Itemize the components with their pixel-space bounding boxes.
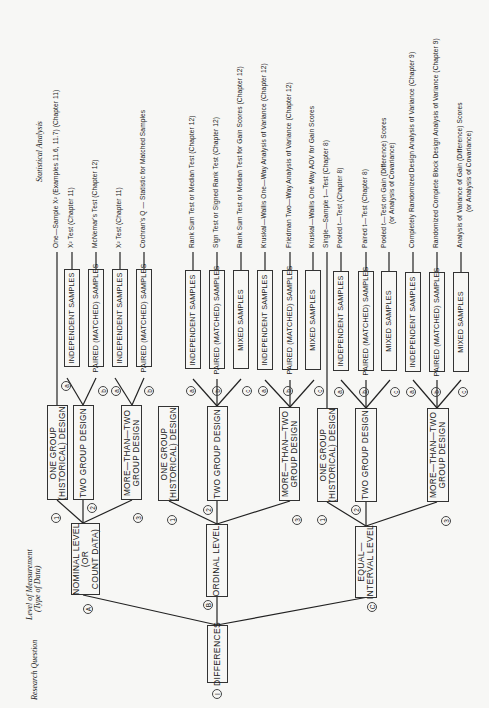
marker-2: 2 bbox=[203, 505, 213, 515]
sample-label: INDEPENDENT SAMPLES bbox=[68, 272, 76, 363]
heading-research-question: Research Question bbox=[31, 640, 39, 700]
marker-c: c bbox=[390, 387, 400, 397]
differences-box: DIFFERENCES bbox=[207, 625, 228, 683]
sample-independent: INDEPENDENT SAMPLES bbox=[112, 269, 128, 367]
test-label: Kruskal—Wallis One—Way Analysis of Varia… bbox=[261, 63, 268, 248]
marker-c: c bbox=[242, 386, 252, 396]
sample-independent: INDEPENDENT SAMPLES bbox=[64, 269, 80, 367]
ordinal-level-box: ORDINAL LEVEL bbox=[206, 524, 228, 597]
marker-a: a bbox=[258, 386, 268, 396]
nominal-level-box: NOMINAL LEVEL(ORCOUNT DATA) bbox=[71, 523, 100, 595]
marker-1: 1 bbox=[167, 515, 177, 525]
marker-3: 3 bbox=[292, 515, 302, 525]
marker-a: a bbox=[111, 386, 121, 396]
design-two-group-nominal: TWO GROUP DESIGN bbox=[73, 405, 94, 500]
test-label: Single—Sample t—Test (Chapter 8) bbox=[323, 140, 330, 248]
marker-a: a bbox=[61, 381, 71, 391]
design-label: ONE GROUP(HISTORICAL) DESIGN bbox=[159, 407, 177, 501]
sample-label: PAIRED (MATCHED) SAMPLES bbox=[140, 264, 148, 373]
design-more-than-two-ordinal: MORE—THAN—TWOGROUP DESIGN bbox=[279, 407, 300, 501]
design-two-group-ordinal: TWO GROUP DESIGN bbox=[207, 406, 228, 501]
marker-b: b bbox=[144, 386, 154, 396]
marker-1: 1 bbox=[317, 515, 327, 525]
test-label: Sign Test or Signed Rank Test (Chapter 1… bbox=[213, 117, 220, 248]
interval-level-label: EQUAL—INTERVAL LEVEL bbox=[357, 525, 376, 599]
design-label: MORE—THAN—TWOGROUP DESIGN bbox=[280, 411, 298, 497]
sample-label: PAIRED (MATCHED) SAMPLES bbox=[213, 265, 221, 374]
sample-independent: INDEPENDENT SAMPLES bbox=[257, 270, 273, 370]
marker-b: b bbox=[283, 386, 293, 396]
marker-2: 2 bbox=[351, 505, 361, 515]
marker-a: a bbox=[334, 387, 344, 397]
sample-label: INDEPENDENT SAMPLES bbox=[337, 275, 345, 366]
sample-independent: INDEPENDENT SAMPLES bbox=[405, 272, 421, 372]
marker-b: b bbox=[431, 387, 441, 397]
sample-paired: PAIRED (MATCHED) SAMPLES bbox=[358, 271, 374, 371]
design-one-group-ordinal: ONE GROUP(HISTORICAL) DESIGN bbox=[158, 406, 179, 501]
test-label: Pooled t—Test (Chapter 8) bbox=[337, 167, 344, 248]
marker-b: b bbox=[98, 386, 108, 396]
design-label: MORE—THAN—TWOGROUP DESIGN bbox=[122, 409, 140, 495]
sample-label: PAIRED (MATCHED) SAMPLES bbox=[92, 264, 100, 373]
design-label: ONE GROUP(HISTORICAL) DESIGN bbox=[318, 408, 336, 502]
marker-3: 3 bbox=[441, 516, 451, 526]
marker-b: b bbox=[359, 387, 369, 397]
sample-mixed: MIXED SAMPLES bbox=[233, 270, 249, 369]
marker-B: B bbox=[203, 600, 213, 610]
sample-mixed: MIXED SAMPLES bbox=[305, 270, 321, 370]
sample-paired: PAIRED (MATCHED) SAMPLES bbox=[429, 272, 445, 372]
design-label: MORE—THAN—TWOGROUP DESIGN bbox=[429, 412, 447, 498]
sample-label: MIXED SAMPLES bbox=[385, 290, 393, 351]
sample-paired: PAIRED (MATCHED) SAMPLES bbox=[136, 269, 152, 367]
marker-a: a bbox=[406, 387, 416, 397]
nominal-level-label: NOMINAL LEVEL(ORCOUNT DATA) bbox=[71, 523, 99, 595]
design-one-group-interval: ONE GROUP(HISTORICAL) DESIGN bbox=[317, 408, 338, 502]
sample-independent: INDEPENDENT SAMPLES bbox=[185, 270, 201, 369]
marker-3: 3 bbox=[133, 513, 143, 523]
heading-type-of-data: (Type of Data) bbox=[34, 565, 42, 612]
test-label: Friedman Two—Way Analysis of Variance (C… bbox=[286, 82, 293, 248]
sample-label: INDEPENDENT SAMPLES bbox=[261, 274, 269, 365]
design-more-than-two-interval: MORE—THAN—TWOGROUP DESIGN bbox=[427, 408, 449, 502]
marker-c: c bbox=[458, 387, 468, 397]
sample-label: INDEPENDENT SAMPLES bbox=[189, 274, 197, 365]
sample-paired: PAIRED (MATCHED) SAMPLES bbox=[209, 270, 225, 369]
marker-2: 2 bbox=[87, 503, 97, 513]
test-label: McNemar's Test (Chapter 12) bbox=[92, 160, 99, 248]
test-label: Randomized Complete Block Design Analysi… bbox=[433, 38, 440, 248]
test-label: Paired t—Test (Chapter 8) bbox=[362, 169, 369, 248]
sample-label: PAIRED (MATCHED) SAMPLES bbox=[362, 267, 370, 376]
sample-label: MIXED SAMPLES bbox=[237, 289, 245, 350]
test-label: X² Test (Chapter 11) bbox=[116, 187, 123, 248]
ordinal-level-label: ORDINAL LEVEL bbox=[212, 525, 221, 596]
interval-level-box: EQUAL—INTERVAL LEVEL bbox=[355, 526, 377, 598]
test-label: Pooled t—Test on Gain (Difference) Score… bbox=[381, 118, 388, 248]
sample-label: MIXED SAMPLES bbox=[309, 289, 317, 350]
test-label: Analysis of Variance of Gain (Difference… bbox=[457, 102, 464, 248]
heading-statistical-analysis: Statistical Analysis bbox=[36, 121, 44, 182]
sample-label: INDEPENDENT SAMPLES bbox=[116, 272, 124, 363]
flowchart: Research Question Level of Measurement (… bbox=[0, 0, 489, 708]
design-label: TWO GROUP DESIGN bbox=[79, 408, 88, 498]
design-label: ONE GROUP(HISTORICAL) DESIGN bbox=[48, 406, 66, 500]
design-one-group-nominal: ONE GROUP(HISTORICAL) DESIGN bbox=[47, 405, 68, 500]
sample-label: INDEPENDENT SAMPLES bbox=[409, 276, 417, 367]
sample-mixed: MIXED SAMPLES bbox=[381, 271, 397, 371]
test-label: Rank Sum Test or Median Test for Gain Sc… bbox=[237, 66, 244, 248]
design-label: TWO GROUP DESIGN bbox=[361, 410, 370, 500]
test-label: Cochran's Q — Statistic for Matched Samp… bbox=[140, 110, 147, 248]
marker-A: A bbox=[83, 604, 93, 614]
sample-label: PAIRED (MATCHED) SAMPLES bbox=[286, 266, 294, 375]
design-label: TWO GROUP DESIGN bbox=[213, 409, 222, 499]
test-label: One—Sample X² (Examples 11.6, 11.7) (Cha… bbox=[53, 90, 60, 248]
sample-label: MIXED SAMPLES bbox=[457, 291, 465, 352]
sample-independent: INDEPENDENT SAMPLES bbox=[333, 271, 349, 371]
test-label: Completely Randomized Design Analysis of… bbox=[409, 52, 416, 248]
marker-a: a bbox=[186, 386, 196, 396]
sample-paired: PAIRED (MATCHED) SAMPLES bbox=[282, 270, 298, 370]
marker-1: 1 bbox=[51, 513, 61, 523]
design-two-group-interval: TWO GROUP DESIGN bbox=[355, 408, 377, 502]
sample-paired: PAIRED (MATCHED) SAMPLES bbox=[88, 269, 104, 367]
marker-C: C bbox=[367, 602, 377, 612]
marker-I: I bbox=[212, 689, 222, 699]
